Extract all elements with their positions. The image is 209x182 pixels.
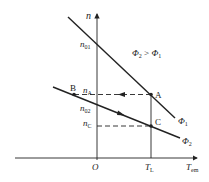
point-b	[72, 93, 76, 97]
tl-label: TL	[145, 162, 154, 173]
diagram-canvas: n n01 nA n02 nC A B C Φ1 Φ2 Φ2 > Φ1 O TL…	[0, 0, 209, 182]
point-a	[149, 93, 153, 97]
arrow-b-to-c-icon	[117, 111, 125, 116]
label-c: C	[155, 117, 161, 127]
tick-nc: nC	[83, 118, 92, 129]
arrow-a-to-b-icon	[118, 92, 125, 97]
x-axis-label: Tem	[186, 162, 199, 173]
label-a: A	[155, 90, 162, 100]
flux-comparison-annotation: Φ2 > Φ1	[132, 48, 161, 59]
label-phi2: Φ2	[182, 136, 192, 147]
tick-na: nA	[83, 85, 93, 96]
label-phi1: Φ1	[178, 116, 188, 127]
diagram-svg: n n01 nA n02 nC A B C Φ1 Φ2 Φ2 > Φ1 O TL…	[0, 0, 209, 182]
label-b: B	[70, 83, 76, 93]
point-c	[149, 124, 153, 128]
tick-n01: n01	[80, 39, 91, 50]
tick-n02: n02	[80, 103, 91, 114]
y-axis-label: n	[86, 10, 91, 21]
origin-label: O	[92, 162, 99, 172]
